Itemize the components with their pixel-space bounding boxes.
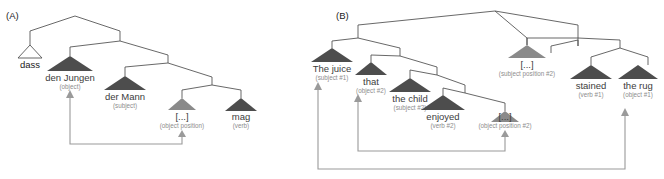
role-b-the-rug: (object #1) xyxy=(623,91,653,99)
node-b-object-gap: [...] (object position #2) xyxy=(478,111,531,130)
movement-a-object-tailhead xyxy=(178,130,186,137)
figure-canvas: (A) dass den Jungen (object) xyxy=(0,0,664,179)
edge-root-a xyxy=(30,16,120,45)
edge-root-b xyxy=(358,11,578,38)
movement-b-subject-arrowhead xyxy=(314,82,322,90)
role-a-der-mann: (subject) xyxy=(113,102,137,110)
word-b-the-rug: the rug xyxy=(623,80,653,91)
edge-b-left-top xyxy=(332,38,400,56)
edge-b-right-low xyxy=(591,48,648,65)
node-b-the-juice: The juice (subject #1) xyxy=(311,48,353,82)
triangle-b-the-child xyxy=(389,78,431,92)
word-b-that: that xyxy=(363,76,379,87)
word-a-der-mann: der Mann xyxy=(105,91,145,102)
role-b-object-gap: (object position #2) xyxy=(478,122,531,130)
triangle-b-the-juice xyxy=(311,48,353,62)
movement-b-object-arrowhead xyxy=(354,94,362,102)
word-b-enjoyed: enjoyed xyxy=(426,111,459,122)
node-a-der-mann: der Mann (subject) xyxy=(104,76,146,110)
word-b-stained: stained xyxy=(576,80,607,91)
edge-level3-a xyxy=(125,63,212,85)
word-a-mag: mag xyxy=(232,111,250,122)
edge-b-gap-connect xyxy=(495,11,527,45)
word-a-object-gap: [...] xyxy=(175,111,188,122)
node-a-den-jungen: den Jungen (object) xyxy=(45,56,95,91)
edge-b-right-connect xyxy=(578,38,620,48)
role-a-object-gap: (object position) xyxy=(160,122,204,130)
panel-b: (B) The juice (subject #1) xyxy=(311,10,658,169)
panel-b-tag: (B) xyxy=(336,10,349,21)
node-b-that: that (object #2) xyxy=(355,62,387,95)
role-b-the-juice: (subject #1) xyxy=(316,74,349,82)
edge-level4-a xyxy=(182,85,241,98)
triangle-b-that xyxy=(355,62,387,75)
triangle-b-subject-gap xyxy=(508,45,546,58)
word-b-the-child: the child xyxy=(392,93,427,104)
role-b-stained: (verb #1) xyxy=(578,91,603,99)
node-b-the-rug: the rug (object #1) xyxy=(618,65,658,99)
triangle-a-dass xyxy=(18,45,42,58)
role-a-den-jungen: (object) xyxy=(60,83,81,91)
panel-a-tag: (A) xyxy=(6,10,19,21)
node-b-the-child: the child (subject #2) xyxy=(389,78,431,112)
word-a-dass: dass xyxy=(20,59,40,70)
word-b-the-juice: The juice xyxy=(313,63,352,74)
edge-b-right-stub xyxy=(551,40,578,53)
triangle-a-den-jungen xyxy=(47,56,93,71)
word-b-subject-gap: [...] xyxy=(520,59,533,70)
triangle-a-object-gap xyxy=(168,98,196,110)
syntax-tree-figure: (A) dass den Jungen (object) xyxy=(0,0,664,179)
role-b-enjoyed: (verb #2) xyxy=(430,122,455,130)
triangle-a-mag xyxy=(225,98,257,111)
edge-level2-a xyxy=(70,41,168,63)
word-b-object-gap: [...] xyxy=(498,111,511,122)
node-a-dass: dass xyxy=(18,45,42,70)
movement-b-object-tailhead xyxy=(501,130,509,137)
node-a-object-gap: [...] (object position) xyxy=(160,98,204,130)
movement-a-object-arrowhead xyxy=(66,90,74,98)
node-b-subject-gap: [...] (subject position #2) xyxy=(499,45,555,78)
node-a-mag: mag (verb) xyxy=(225,98,257,130)
movement-b-subject-tailhead xyxy=(621,108,629,116)
role-b-the-child: (subject #2) xyxy=(394,104,427,112)
triangle-b-stained xyxy=(570,65,612,79)
role-b-subject-gap: (subject position #2) xyxy=(499,70,555,78)
movement-b-subject-path xyxy=(318,88,625,169)
role-a-mag: (verb) xyxy=(233,122,249,130)
panel-a: (A) dass den Jungen (object) xyxy=(6,10,257,144)
triangle-b-the-rug xyxy=(618,65,658,79)
node-b-stained: stained (verb #1) xyxy=(570,65,612,99)
triangle-a-der-mann xyxy=(104,76,146,90)
role-b-that: (object #2) xyxy=(356,87,386,95)
word-a-den-jungen: den Jungen xyxy=(45,72,95,83)
